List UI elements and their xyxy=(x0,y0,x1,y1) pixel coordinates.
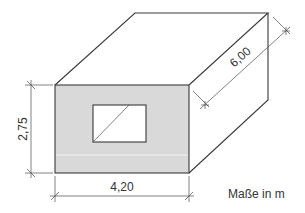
height-label: 2,75 xyxy=(16,117,30,141)
top-face-edges xyxy=(55,13,268,85)
depth-label: 6,00 xyxy=(227,44,254,70)
depth-dimension: 6,00 xyxy=(193,17,290,109)
right-face-edges xyxy=(189,13,268,173)
width-dimension: 4,20 xyxy=(50,176,194,202)
width-label: 4,20 xyxy=(110,180,134,194)
units-note: Maße in m xyxy=(228,187,285,201)
height-dimension: 2,75 xyxy=(16,80,53,178)
box-diagram: 2,75 4,20 6,00 Maße in m xyxy=(0,0,305,213)
window-opening xyxy=(93,105,146,142)
